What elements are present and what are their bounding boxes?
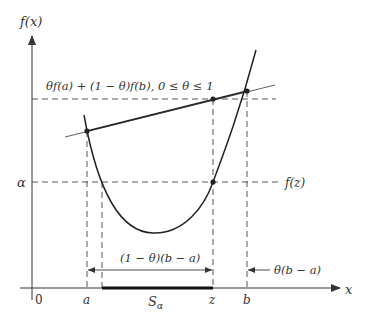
chord-segment (87, 91, 247, 131)
tick-label-b: b (243, 293, 251, 307)
left-span-label: (1 − θ)(b − a) (120, 251, 200, 265)
sublevel-set-subscript: α (157, 301, 163, 311)
fz-label: f(z) (284, 176, 305, 190)
convex-sublevel-diagram: f(x) x 0 a z b α f(z) θf(a) + (1 − θ)f(b… (0, 0, 370, 326)
point-z-chord (210, 96, 215, 101)
tick-label-a: a (83, 293, 90, 307)
y-axis-label: f(x) (19, 14, 42, 29)
point-a-fa (84, 128, 89, 133)
chord-formula-label: θf(a) + (1 − θ)f(b), 0 ≤ θ ≤ 1 (46, 79, 213, 93)
point-z-fz (210, 179, 215, 184)
tick-label-z: z (208, 293, 216, 307)
right-span-label: θ(b − a) (274, 263, 321, 277)
alpha-label: α (17, 175, 26, 190)
point-b-fb (244, 88, 249, 93)
convex-function-curve (84, 50, 256, 233)
sublevel-set-label: Sα (148, 294, 163, 311)
origin-label: 0 (35, 293, 43, 307)
x-axis-label: x (345, 282, 353, 297)
sublevel-set-symbol: S (148, 294, 157, 309)
